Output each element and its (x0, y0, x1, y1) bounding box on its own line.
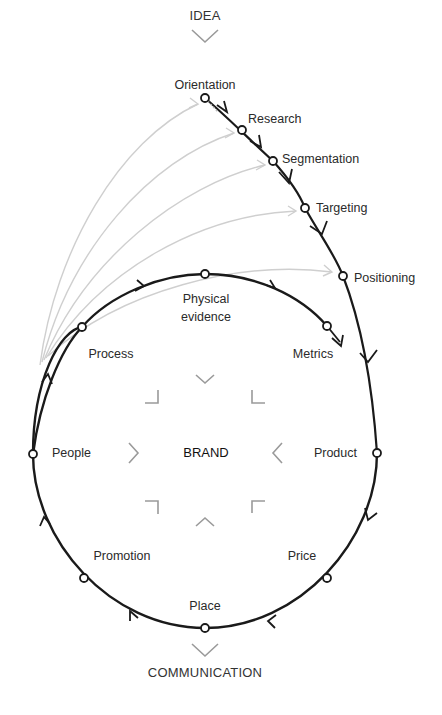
label-physical: Physical (183, 292, 230, 308)
label-metrics: Metrics (293, 347, 333, 363)
idea-label: IDEA (189, 8, 220, 24)
chevron-bottom-left-icon (145, 501, 158, 514)
chevron-bottom-right-icon (252, 501, 265, 513)
label-place: Place (189, 599, 220, 615)
label-orientation: Orientation (174, 78, 235, 94)
label-price: Price (288, 549, 316, 565)
node-physical-evidence (201, 270, 209, 278)
node-research (238, 126, 246, 134)
chevron-top-icon (196, 375, 214, 383)
brand-label: BRAND (183, 445, 229, 461)
chevron-bottom-icon (196, 518, 214, 526)
label-product: Product (314, 446, 357, 462)
node-people (29, 450, 37, 458)
chevron-down-icon (192, 644, 218, 656)
label-segmentation: Segmentation (282, 152, 359, 168)
node-segmentation (269, 157, 277, 165)
label-targeting: Targeting (316, 201, 367, 217)
node-targeting (301, 204, 309, 212)
node-orientation (201, 94, 209, 102)
nodes (29, 94, 381, 632)
label-promotion: Promotion (94, 549, 151, 565)
node-promotion (80, 574, 88, 582)
node-price (323, 574, 331, 582)
node-product (373, 449, 381, 457)
node-place (201, 624, 209, 632)
chevron-top-right-icon (252, 390, 265, 403)
label-research: Research (248, 112, 302, 128)
node-process (78, 323, 86, 331)
label-people: People (52, 446, 91, 462)
chevron-top-left-icon (145, 390, 158, 403)
node-positioning (339, 272, 347, 280)
chevron-left-icon (129, 443, 138, 463)
label-positioning: Positioning (354, 271, 415, 287)
flow-arrowheads (40, 101, 377, 628)
label-evidence: evidence (181, 310, 231, 326)
chevron-down-icon (192, 30, 218, 42)
chevron-right-icon (273, 443, 282, 463)
communication-label: COMMUNICATION (148, 665, 262, 681)
label-process: Process (88, 347, 133, 363)
node-metrics (323, 322, 331, 330)
diagram-canvas (0, 0, 442, 715)
